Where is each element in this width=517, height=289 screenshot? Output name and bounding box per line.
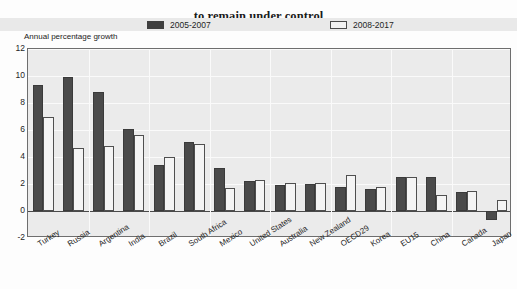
legend-swatch-icon-series-0 <box>147 21 164 29</box>
y-axis-tick-label: 8 <box>3 97 25 107</box>
gridline-vertical <box>270 49 271 236</box>
bar-korea-2008-2017[interactable] <box>376 187 387 211</box>
legend-entry-2005-2007[interactable]: 2005-2007 <box>147 18 211 31</box>
chart-plot-area <box>27 48 511 237</box>
bar-australia-2005-2007[interactable] <box>275 185 286 211</box>
bar-argentina-2008-2017[interactable] <box>104 146 115 211</box>
zero-baseline <box>28 211 510 212</box>
bar-australia-2008-2017[interactable] <box>285 183 296 211</box>
bar-south-africa-2008-2017[interactable] <box>194 144 205 212</box>
bar-united-states-2008-2017[interactable] <box>255 180 266 211</box>
y-axis-tick-label: 0 <box>3 205 25 215</box>
bar-eu15-2008-2017[interactable] <box>406 177 417 211</box>
y-axis-tick-label: 4 <box>3 151 25 161</box>
gridline-vertical <box>452 49 453 236</box>
bar-korea-2005-2007[interactable] <box>365 189 376 211</box>
legend-swatch-icon-series-1 <box>330 21 347 29</box>
bar-canada-2005-2007[interactable] <box>456 192 467 211</box>
y-axis-tick-label: 12 <box>3 43 25 53</box>
gridline-horizontal <box>28 76 510 77</box>
gridline-horizontal <box>28 49 510 50</box>
bar-brazil-2008-2017[interactable] <box>164 157 175 211</box>
bar-russia-2008-2017[interactable] <box>73 148 84 211</box>
legend-label-series-1: 2008-2017 <box>353 20 394 30</box>
bar-canada-2008-2017[interactable] <box>467 191 478 211</box>
y-axis-tick-label: -2 <box>3 232 25 242</box>
legend-label-series-0: 2005-2007 <box>170 20 211 30</box>
y-axis: -2024681012 <box>0 0 25 289</box>
gridline-vertical <box>149 49 150 236</box>
bar-turkey-2005-2007[interactable] <box>33 85 44 211</box>
gridline-vertical <box>210 49 211 236</box>
bar-india-2005-2007[interactable] <box>123 129 134 211</box>
bar-japan-2005-2007[interactable] <box>486 211 497 220</box>
bar-argentina-2005-2007[interactable] <box>93 92 104 211</box>
y-axis-caption: Annual percentage growth <box>24 32 117 41</box>
bar-south-africa-2005-2007[interactable] <box>184 142 195 211</box>
bar-brazil-2005-2007[interactable] <box>154 165 165 211</box>
bar-turkey-2008-2017[interactable] <box>43 117 54 212</box>
bar-china-2008-2017[interactable] <box>436 195 447 211</box>
bar-india-2008-2017[interactable] <box>134 135 145 211</box>
bar-new-zealand-2005-2007[interactable] <box>305 184 316 211</box>
y-axis-tick-label: 10 <box>3 70 25 80</box>
gridline-vertical <box>331 49 332 236</box>
bar-china-2005-2007[interactable] <box>426 177 437 211</box>
bar-mexico-2008-2017[interactable] <box>225 188 236 211</box>
bar-russia-2005-2007[interactable] <box>63 77 74 211</box>
y-axis-tick-label: 6 <box>3 124 25 134</box>
bar-eu15-2005-2007[interactable] <box>396 177 407 211</box>
y-axis-tick-label: 2 <box>3 178 25 188</box>
bar-new-zealand-2008-2017[interactable] <box>315 183 326 211</box>
gridline-vertical <box>89 49 90 236</box>
bar-japan-2008-2017[interactable] <box>497 200 508 211</box>
gridline-vertical <box>391 49 392 236</box>
bar-mexico-2005-2007[interactable] <box>214 168 225 211</box>
bar-oecd29-2005-2007[interactable] <box>335 187 346 211</box>
chart-legend: 2005-2007 2008-2017 <box>0 18 517 31</box>
legend-entry-2008-2017[interactable]: 2008-2017 <box>330 18 394 31</box>
bar-united-states-2005-2007[interactable] <box>244 181 255 211</box>
bar-oecd29-2008-2017[interactable] <box>346 175 357 211</box>
